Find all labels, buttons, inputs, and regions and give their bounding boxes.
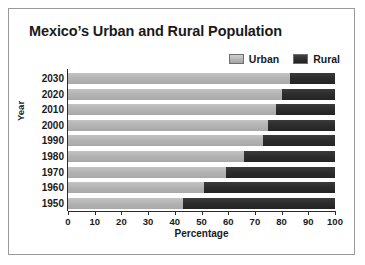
y-tick-label: 1960 xyxy=(9,180,64,195)
bar-row: 2010 xyxy=(9,102,354,117)
stacked-bar xyxy=(68,182,335,193)
x-tick-label: 20 xyxy=(116,216,127,227)
bar-row: 2030 xyxy=(9,71,354,86)
x-tick-label: 40 xyxy=(170,216,181,227)
y-tick-label: 2020 xyxy=(9,87,64,102)
bar-segment-urban xyxy=(68,135,263,146)
x-tick-label: 50 xyxy=(196,216,207,227)
x-axis-tick xyxy=(202,211,203,215)
bar-segment-rural xyxy=(244,151,335,162)
stacked-bar xyxy=(68,198,335,209)
stacked-bar xyxy=(68,151,335,162)
bar-segment-urban xyxy=(68,73,290,84)
x-axis-tick xyxy=(335,211,336,215)
legend-item-rural: Rural xyxy=(293,53,340,65)
y-tick-label: 2030 xyxy=(9,71,64,86)
chart-legend: Urban Rural xyxy=(229,53,340,65)
bar-segment-rural xyxy=(268,120,335,131)
bar-segment-rural xyxy=(183,198,335,209)
x-axis-tick xyxy=(175,211,176,215)
chart-card: Mexico’s Urban and Rural Population Urba… xyxy=(8,8,355,255)
legend-label-urban: Urban xyxy=(249,53,279,65)
bar-row: 1970 xyxy=(9,165,354,180)
x-axis-tick xyxy=(255,211,256,215)
x-axis-tick xyxy=(282,211,283,215)
stacked-bar xyxy=(68,135,335,146)
bar-rows: 203020202010200019901980197019601950 xyxy=(9,71,354,211)
x-tick-label: 10 xyxy=(89,216,100,227)
legend-swatch-rural-icon xyxy=(293,54,308,64)
stacked-bar xyxy=(68,120,335,131)
legend-swatch-urban-icon xyxy=(229,54,244,64)
bar-segment-urban xyxy=(68,89,282,100)
bar-row: 1990 xyxy=(9,133,354,148)
bar-row: 1960 xyxy=(9,180,354,195)
bar-segment-urban xyxy=(68,104,276,115)
y-tick-label: 1970 xyxy=(9,165,64,180)
stacked-bar xyxy=(68,104,335,115)
x-axis-tick xyxy=(308,211,309,215)
y-tick-label: 1990 xyxy=(9,133,64,148)
bar-segment-urban xyxy=(68,198,183,209)
bar-segment-rural xyxy=(282,89,335,100)
x-tick-label: 60 xyxy=(223,216,234,227)
bar-segment-rural xyxy=(290,73,335,84)
stacked-bar xyxy=(68,89,335,100)
stacked-bar xyxy=(68,73,335,84)
bar-segment-urban xyxy=(68,120,268,131)
x-axis-title: Percentage xyxy=(68,228,335,239)
x-axis-tick xyxy=(68,211,69,215)
chart-title: Mexico’s Urban and Rural Population xyxy=(29,23,282,39)
bar-segment-rural xyxy=(204,182,335,193)
bar-row: 1950 xyxy=(9,196,354,211)
x-axis-tick xyxy=(121,211,122,215)
x-tick-label: 70 xyxy=(250,216,261,227)
legend-label-rural: Rural xyxy=(313,53,340,65)
y-tick-label: 1950 xyxy=(9,196,64,211)
bar-row: 2000 xyxy=(9,118,354,133)
bar-segment-urban xyxy=(68,167,226,178)
x-axis-tick xyxy=(148,211,149,215)
x-tick-label: 80 xyxy=(276,216,287,227)
bar-row: 1980 xyxy=(9,149,354,164)
x-tick-label: 90 xyxy=(303,216,314,227)
y-tick-label: 2000 xyxy=(9,118,64,133)
bar-segment-urban xyxy=(68,151,244,162)
legend-item-urban: Urban xyxy=(229,53,279,65)
y-tick-label: 1980 xyxy=(9,149,64,164)
y-tick-label: 2010 xyxy=(9,102,64,117)
x-axis-line: 0102030405060708090100 xyxy=(68,211,335,212)
bar-segment-rural xyxy=(276,104,335,115)
bar-segment-urban xyxy=(68,182,204,193)
x-axis-tick xyxy=(95,211,96,215)
plot-area: Year 20302020201020001990198019701960195… xyxy=(9,71,354,221)
bar-row: 2020 xyxy=(9,87,354,102)
stacked-bar xyxy=(68,167,335,178)
x-tick-label: 30 xyxy=(143,216,154,227)
bar-segment-rural xyxy=(226,167,335,178)
x-tick-label: 0 xyxy=(65,216,70,227)
x-tick-label: 100 xyxy=(327,216,343,227)
bar-segment-rural xyxy=(263,135,335,146)
x-axis-tick xyxy=(228,211,229,215)
